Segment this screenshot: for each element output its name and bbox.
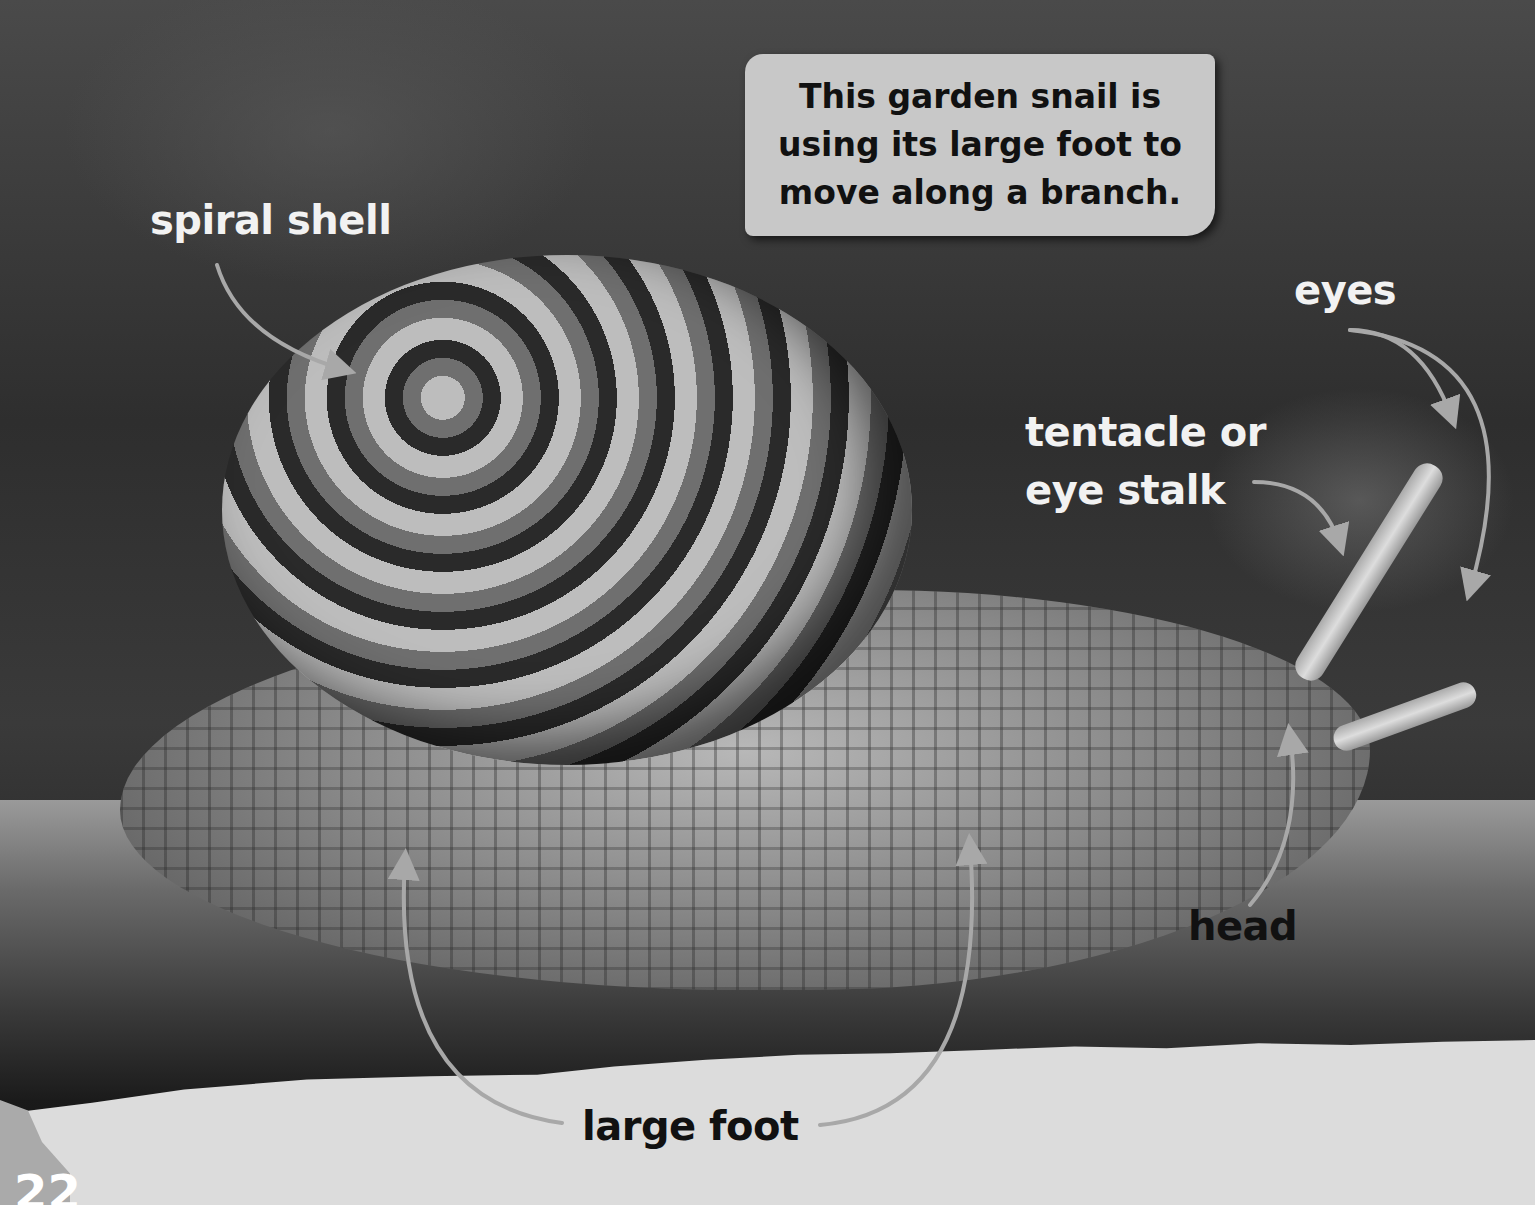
- label-eyes: eyes: [1294, 262, 1396, 318]
- label-head: head: [1188, 898, 1297, 954]
- snail-shell: [222, 255, 912, 765]
- label-tentacle-line1: tentacle or: [1025, 404, 1266, 460]
- label-spiral-shell: spiral shell: [150, 192, 391, 248]
- label-tentacle-line2: eye stalk: [1025, 462, 1225, 518]
- caption-box: This garden snail is using its large foo…: [745, 54, 1215, 236]
- label-large-foot: large foot: [582, 1098, 799, 1154]
- caption-text: This garden snail is using its large foo…: [770, 73, 1190, 217]
- page-number: 22: [14, 1168, 81, 1205]
- book-page: 22 This garden snail is using its large …: [0, 0, 1535, 1205]
